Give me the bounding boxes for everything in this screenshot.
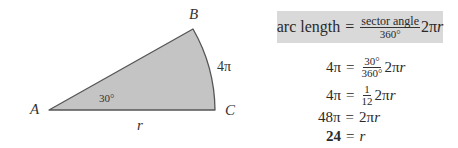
formula-numerator: sector angle: [360, 15, 420, 28]
step-rest: 2π: [384, 59, 399, 76]
sector-diagram: A B C 4π r 30°: [0, 0, 240, 148]
step-lhs: 4π: [326, 59, 341, 76]
step-1: 4π = 30° 360° 2πr: [326, 56, 405, 79]
step-3: 48π = 2πr: [318, 109, 380, 126]
formula-equals: =: [345, 18, 354, 36]
angle-label: 30°: [99, 92, 114, 104]
step-var: r: [359, 128, 365, 145]
vertex-label-a: A: [30, 101, 39, 118]
step-equals: =: [346, 109, 354, 126]
formula-tail: 2π: [421, 18, 437, 36]
step-lhs: 4π: [326, 87, 341, 104]
step-denominator: 12: [361, 96, 374, 107]
sector-shape: [0, 0, 240, 148]
formula-fraction: sector angle 360°: [360, 15, 420, 40]
step-2: 4π = 1 12 2πr: [326, 84, 395, 107]
step-lhs: 48π: [318, 109, 341, 126]
step-rest: 2π: [359, 109, 374, 126]
step-lhs: 24: [326, 128, 341, 145]
formula-lhs: arc length: [277, 18, 341, 36]
step-fraction: 1 12: [361, 84, 374, 107]
step-var: r: [400, 59, 406, 76]
arc-length-label: 4π: [217, 59, 231, 75]
step-equals: =: [346, 59, 354, 76]
vertex-label-c: C: [225, 102, 235, 119]
step-rest: 2π: [375, 87, 390, 104]
step-equals: =: [346, 128, 354, 145]
step-4: 24 = r: [326, 128, 365, 145]
formula-tail-var: r: [437, 18, 443, 36]
step-var: r: [374, 109, 380, 126]
vertex-label-b: B: [189, 6, 198, 23]
radius-label: r: [137, 117, 143, 134]
step-denominator: 360°: [361, 68, 384, 79]
formula-denominator: 360°: [379, 28, 402, 40]
step-var: r: [390, 87, 396, 104]
step-equals: =: [346, 87, 354, 104]
step-fraction: 30° 360°: [361, 56, 384, 79]
arc-length-formula: arc length = sector angle 360° 2πr: [277, 11, 443, 43]
